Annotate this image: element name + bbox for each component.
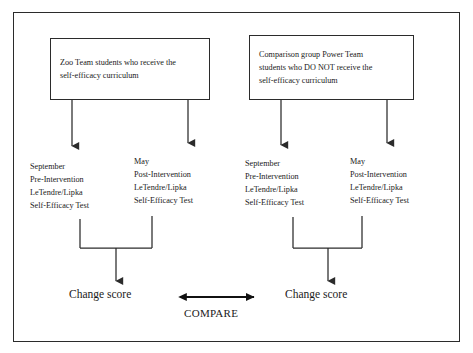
- condition-comparison-line-1: Comparison group Power Team: [259, 48, 404, 61]
- condition-treatment-line-2: self-efficacy curriculum: [60, 69, 200, 82]
- measure-treatment-post-line-4: Self-Efficacy Test: [134, 194, 193, 207]
- measure-comparison-post-line-3: LeTendre/Lipka: [350, 181, 409, 194]
- measure-treatment-pre-line-1: September: [30, 160, 89, 173]
- condition-box-comparison: Comparison group Power Team students who…: [249, 35, 414, 100]
- condition-treatment-line-1: Zoo Team students who receive the: [60, 56, 200, 69]
- measure-comparison-pre-line-1: September: [245, 157, 304, 170]
- measure-treatment-pre-line-3: LeTendre/Lipka: [30, 186, 89, 199]
- measure-comparison-pre-line-2: Pre-Intervention: [245, 170, 304, 183]
- measure-comparison-post-line-2: Post-Intervention: [350, 168, 409, 181]
- measure-block-comparison-post: May Post-Intervention LeTendre/Lipka Sel…: [350, 155, 409, 208]
- measure-block-comparison-pre: September Pre-Intervention LeTendre/Lipk…: [245, 157, 304, 210]
- measure-block-treatment-post: May Post-Intervention LeTendre/Lipka Sel…: [134, 155, 193, 208]
- measure-comparison-post-line-4: Self-Efficacy Test: [350, 194, 409, 207]
- measure-comparison-pre-line-3: LeTendre/Lipka: [245, 183, 304, 196]
- measure-comparison-pre-line-4: Self-Efficacy Test: [245, 196, 304, 209]
- outcome-change-score-treatment: Change score: [69, 288, 131, 300]
- condition-box-treatment: Zoo Team students who receive the self-e…: [50, 38, 210, 100]
- measure-treatment-post-line-3: LeTendre/Lipka: [134, 181, 193, 194]
- outcome-change-score-comparison: Change score: [285, 288, 347, 300]
- condition-comparison-line-3: self-efficacy curriculum: [259, 74, 404, 87]
- measure-block-treatment-pre: September Pre-Intervention LeTendre/Lipk…: [30, 160, 89, 213]
- measure-treatment-pre-line-4: Self-Efficacy Test: [30, 199, 89, 212]
- diagram-canvas: Zoo Team students who receive the self-e…: [0, 0, 473, 353]
- measure-treatment-post-line-2: Post-Intervention: [134, 168, 193, 181]
- measure-treatment-post-line-1: May: [134, 155, 193, 168]
- compare-label: COMPARE: [184, 307, 238, 319]
- measure-comparison-post-line-1: May: [350, 155, 409, 168]
- measure-treatment-pre-line-2: Pre-Intervention: [30, 173, 89, 186]
- condition-comparison-line-2: students who DO NOT receive the: [259, 61, 404, 74]
